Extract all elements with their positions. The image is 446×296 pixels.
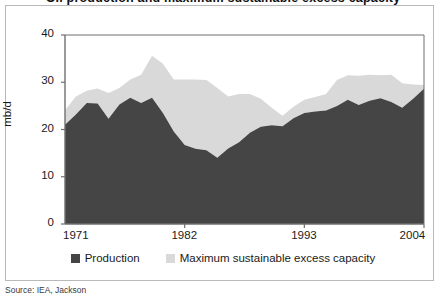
- x-tick-label-1982: 1982: [171, 229, 197, 241]
- x-tick-label-1993: 1993: [291, 229, 317, 241]
- chart-figure: Oil production and maximum sustainable e…: [0, 0, 446, 296]
- y-tick-label-0: 0: [28, 216, 54, 228]
- y-tick-label-30: 30: [28, 74, 54, 86]
- x-tick-label-2004: 2004: [400, 229, 426, 241]
- legend-item-production[interactable]: Production: [71, 252, 140, 264]
- x-tick-label-1971: 1971: [63, 229, 89, 241]
- series-layer: [65, 56, 424, 224]
- legend-item-excess-capacity[interactable]: Maximum sustainable excess capacity: [166, 252, 376, 264]
- legend-label-production: Production: [85, 252, 140, 264]
- source-note: Source: IEA, Jackson: [5, 285, 86, 296]
- y-tick-label-10: 10: [28, 169, 54, 181]
- y-axis-title: mb/d: [1, 101, 13, 127]
- legend-label-excess-capacity: Maximum sustainable excess capacity: [180, 252, 376, 264]
- y-tick-label-20: 20: [28, 122, 54, 134]
- square-swatch-excess-capacity: [166, 254, 175, 263]
- chart-legend: Production Maximum sustainable excess ca…: [0, 252, 446, 264]
- y-tick-label-40: 40: [28, 27, 54, 39]
- square-swatch-production: [71, 254, 80, 263]
